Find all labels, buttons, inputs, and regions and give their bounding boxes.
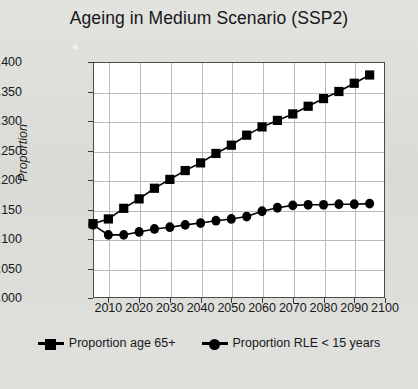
data-point-square: [165, 175, 174, 184]
x-tick-label: 2010: [94, 301, 122, 315]
x-tick-label: 2070: [279, 301, 307, 315]
data-point-square: [334, 87, 343, 96]
x-tick-mark: [201, 298, 202, 303]
x-tick-label: 2020: [125, 301, 153, 315]
y-tick-label: 0.400: [0, 55, 22, 69]
data-point-circle: [334, 199, 343, 209]
y-tick-label: 0.000: [0, 291, 22, 305]
chart-legend: Proportion age 65+ Proportion RLE < 15 y…: [0, 336, 418, 350]
x-tick-mark: [354, 298, 355, 303]
data-point-square: [211, 149, 220, 158]
x-tick-mark: [139, 298, 140, 303]
data-point-circle: [242, 212, 251, 222]
data-point-square: [227, 141, 236, 150]
x-tick-label: 2040: [187, 301, 215, 315]
x-tick-mark: [170, 298, 171, 303]
x-tick-label: 2050: [217, 301, 245, 315]
data-point-circle: [119, 230, 128, 240]
data-point-circle: [196, 218, 205, 228]
x-tick-mark: [231, 298, 232, 303]
circle-marker-icon: [202, 337, 228, 349]
data-point-square: [273, 116, 282, 125]
data-point-square: [135, 194, 144, 203]
legend-label: Proportion RLE < 15 years: [233, 336, 381, 350]
data-point-square: [350, 79, 359, 88]
data-point-square: [119, 204, 128, 213]
x-tick-mark: [324, 298, 325, 303]
x-tick-label: 2080: [310, 301, 338, 315]
x-tick-label: 2100: [371, 301, 399, 315]
data-point-circle: [227, 214, 236, 224]
y-tick-label: 0.200: [0, 173, 22, 187]
x-tick-label: 2030: [156, 301, 184, 315]
data-point-circle: [350, 199, 359, 209]
data-point-square: [304, 102, 313, 111]
x-tick-label: 2060: [248, 301, 276, 315]
data-point-square: [150, 184, 159, 193]
data-point-circle: [104, 230, 113, 240]
data-point-square: [288, 109, 297, 118]
data-point-square: [196, 158, 205, 167]
data-point-circle: [288, 200, 297, 210]
series-layer: [93, 62, 385, 298]
data-point-circle: [89, 220, 98, 230]
legend-item-age65: Proportion age 65+: [38, 336, 176, 350]
x-tick-mark: [262, 298, 263, 303]
data-point-square: [257, 122, 266, 131]
data-point-circle: [319, 200, 328, 210]
y-tick-label: 0.100: [0, 232, 22, 246]
data-point-circle: [150, 224, 159, 234]
data-point-circle: [258, 206, 267, 216]
square-marker-icon: [38, 337, 64, 349]
data-point-square: [242, 131, 251, 140]
data-point-circle: [273, 203, 282, 213]
data-point-square: [319, 94, 328, 103]
x-tick-mark: [385, 298, 386, 303]
data-point-square: [181, 166, 190, 175]
data-point-circle: [304, 200, 313, 210]
chart-title: Ageing in Medium Scenario (SSP2): [0, 8, 418, 29]
legend-item-rle15: Proportion RLE < 15 years: [202, 336, 381, 350]
y-tick-label: 0.300: [0, 114, 22, 128]
data-point-circle: [135, 227, 144, 237]
y-tick-label: 0.250: [0, 144, 22, 158]
y-tick-mark: [88, 298, 93, 299]
x-tick-mark: [293, 298, 294, 303]
data-point-circle: [365, 199, 374, 209]
x-tick-mark: [108, 298, 109, 303]
data-point-circle: [181, 220, 190, 230]
data-point-circle: [165, 222, 174, 232]
legend-label: Proportion age 65+: [69, 336, 176, 350]
data-point-square: [104, 214, 113, 223]
y-tick-label: 0.150: [0, 203, 22, 217]
data-point-circle: [211, 216, 220, 226]
data-point-square: [365, 70, 374, 79]
y-tick-label: 0.050: [0, 262, 22, 276]
x-tick-label: 2090: [340, 301, 368, 315]
y-tick-label: 0.350: [0, 85, 22, 99]
